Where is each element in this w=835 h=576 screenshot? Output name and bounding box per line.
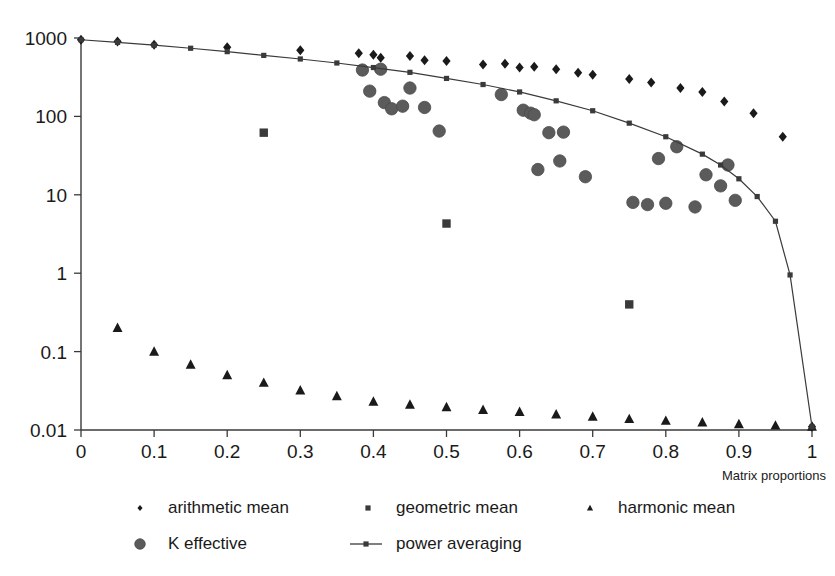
data-point-circle [557, 126, 569, 138]
log-scatter-plot: 10001001010.10.01 00.10.20.30.40.50.60.7… [0, 0, 835, 576]
x-axis-title: Matrix proportions [722, 468, 827, 483]
data-point-circle [385, 103, 397, 115]
data-point-square [365, 505, 370, 510]
legend-label: K effective [168, 534, 247, 553]
legend-label: power averaging [396, 534, 522, 553]
data-point-circle [404, 82, 416, 94]
data-point-circle [135, 539, 146, 550]
y-tick-label: 0.1 [41, 342, 67, 363]
data-point-circle [729, 194, 741, 206]
x-tick-label: 0.8 [653, 441, 679, 462]
x-tick-label: 0.6 [506, 441, 532, 462]
data-point-circle [532, 163, 544, 175]
data-point-line-square [590, 108, 595, 113]
data-point-line-square [152, 43, 157, 48]
data-point-line-square [334, 60, 339, 65]
data-point-square [625, 300, 633, 308]
plot-background [0, 0, 835, 576]
data-point-circle [660, 197, 672, 209]
data-point-line-square [787, 272, 792, 277]
data-point-line-square [78, 37, 83, 42]
x-tick-label: 0 [76, 441, 87, 462]
data-point-circle [579, 171, 591, 183]
legend-label: geometric mean [396, 498, 518, 517]
data-point-line-square [755, 194, 760, 199]
y-tick-label: 10 [46, 185, 67, 206]
y-tick-label: 1000 [25, 28, 67, 49]
data-point-circle [495, 88, 507, 100]
data-point-line-square [773, 219, 778, 224]
data-point-line-square [115, 40, 120, 45]
data-point-line-square [718, 162, 723, 167]
data-point-circle [641, 198, 653, 210]
data-point-square [260, 128, 268, 136]
legend-label: arithmetic mean [168, 498, 289, 517]
x-tick-label: 0.1 [141, 441, 167, 462]
data-point-circle [554, 155, 566, 167]
data-point-line-square [298, 56, 303, 61]
x-tick-label: 0.3 [287, 441, 313, 462]
data-point-line-square [480, 82, 485, 87]
x-tick-label: 0.9 [726, 441, 752, 462]
data-point-circle [652, 152, 664, 164]
y-tick-label: 100 [35, 106, 67, 127]
data-point-square [442, 219, 450, 227]
x-tick-label: 1 [807, 441, 818, 462]
legend-label: harmonic mean [618, 498, 735, 517]
data-point-line-square [627, 121, 632, 126]
data-point-line-square [444, 76, 449, 81]
chart-container: 10001001010.10.01 00.10.20.30.40.50.60.7… [0, 0, 835, 576]
data-point-circle [528, 109, 540, 121]
data-point-line-square [225, 49, 230, 54]
data-point-line-square [809, 424, 814, 429]
y-tick-label: 1 [56, 263, 67, 284]
data-point-circle [433, 125, 445, 137]
data-point-line-square [554, 98, 559, 103]
data-point-line-square [363, 541, 368, 546]
data-point-line-square [261, 53, 266, 58]
x-tick-label: 0.4 [360, 441, 387, 462]
data-point-circle [700, 169, 712, 181]
data-point-line-square [371, 65, 376, 70]
data-point-circle [689, 201, 701, 213]
data-point-line-square [188, 46, 193, 51]
data-point-line-square [736, 176, 741, 181]
data-point-circle [418, 101, 430, 113]
x-tick-label: 0.2 [214, 441, 240, 462]
data-point-line-square [663, 134, 668, 139]
x-tick-label: 0.5 [433, 441, 459, 462]
x-tick-label: 0.7 [579, 441, 605, 462]
y-tick-label: 0.01 [30, 420, 67, 441]
data-point-line-square [700, 152, 705, 157]
data-point-circle [396, 100, 408, 112]
data-point-line-square [407, 70, 412, 75]
data-point-line-square [517, 89, 522, 94]
data-point-circle [722, 159, 734, 171]
data-point-circle [364, 85, 376, 97]
data-point-circle [714, 180, 726, 192]
data-point-circle [543, 126, 555, 138]
data-point-circle [627, 196, 639, 208]
